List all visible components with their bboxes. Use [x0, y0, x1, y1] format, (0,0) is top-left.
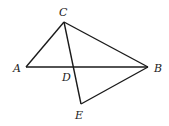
segment-EB — [81, 67, 148, 104]
geometry-diagram: A B C D E — [0, 0, 169, 126]
segment-CE — [64, 22, 81, 104]
label-point-e: E — [74, 109, 83, 122]
segment-CB — [64, 22, 148, 67]
label-point-d: D — [61, 71, 71, 84]
segment-AC — [26, 22, 64, 67]
label-point-c: C — [59, 6, 68, 19]
label-point-a: A — [12, 62, 21, 75]
label-point-b: B — [153, 62, 162, 75]
diagram-svg: A B C D E — [0, 0, 169, 126]
